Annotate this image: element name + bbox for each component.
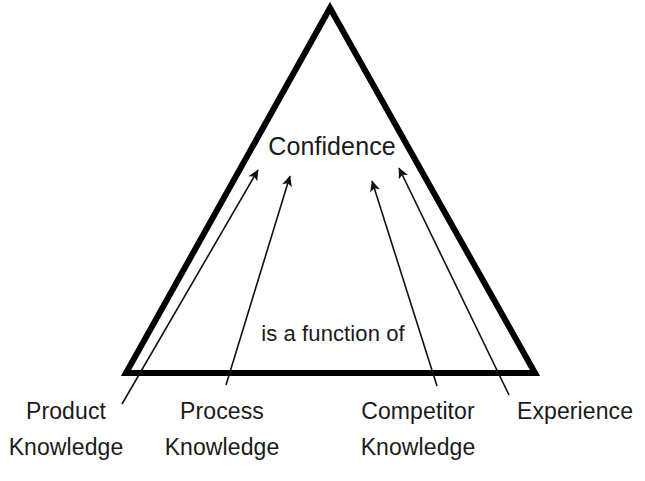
- triangle-outline: [126, 8, 535, 373]
- diagram-graphics: [0, 0, 645, 481]
- diagram-canvas: Confidence is a function of Product Know…: [0, 0, 645, 481]
